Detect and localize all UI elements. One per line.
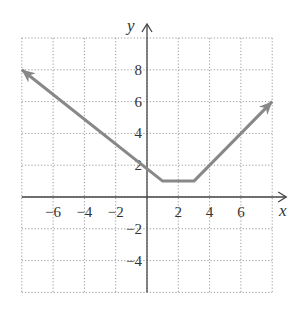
tick-labels: −6−4−2246−4−22468 [45, 62, 245, 269]
y-tick-label: 8 [135, 62, 143, 78]
y-tick-label: −4 [126, 253, 142, 269]
y-tick-label: −2 [126, 221, 142, 237]
axes [22, 24, 286, 292]
x-axis-label: x [278, 201, 287, 220]
x-tick-label: 2 [175, 204, 183, 220]
x-tick-label: −4 [76, 204, 92, 220]
y-axis-label: y [125, 16, 135, 35]
x-tick-label: −2 [108, 204, 124, 220]
y-tick-label: 6 [135, 94, 143, 110]
x-tick-label: 6 [237, 204, 245, 220]
graph: −6−4−2246−4−22468 x y [0, 0, 306, 318]
y-tick-label: 4 [135, 125, 143, 141]
x-tick-label: −6 [45, 204, 61, 220]
x-tick-label: 4 [206, 204, 214, 220]
